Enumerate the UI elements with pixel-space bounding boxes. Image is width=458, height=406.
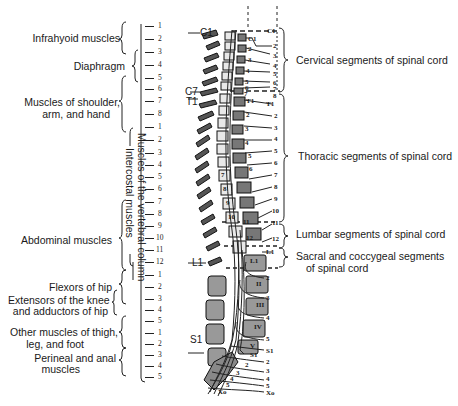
label-thoracic-segments: Thoracic segments of spinal cord: [298, 150, 452, 162]
body-t7: 7: [221, 171, 225, 179]
body-coccygeal: Xo: [218, 388, 227, 396]
label-sacral-segments-2: of spinal cord: [306, 262, 368, 274]
body-t4: 4: [245, 139, 249, 147]
thoracic-scale-12: 12: [156, 258, 164, 266]
root-t4: 4: [274, 135, 278, 143]
sacral-scale-1: 1: [158, 329, 162, 337]
root-l4: 4: [266, 314, 270, 322]
body-l3: III: [256, 301, 264, 309]
root-t2: 2: [274, 112, 278, 120]
root-l2: 2: [266, 274, 270, 282]
root-l1: L1: [266, 248, 274, 256]
thoracic-scale-11: 11: [156, 246, 163, 254]
cervical-scale-4: 4: [158, 61, 162, 69]
body-c1: C1: [248, 35, 257, 43]
lumbar-scale-5: 5: [158, 317, 162, 325]
thoracic-scale-10: 10: [156, 234, 164, 242]
root-c8: 8: [273, 92, 277, 100]
thoracic-scale-2: 2: [158, 136, 162, 144]
lumbar-scale-1: 1: [158, 271, 162, 279]
root-c5: 5: [273, 70, 277, 78]
body-s1: S1: [250, 351, 257, 359]
body-t9: 9: [226, 199, 230, 207]
root-t1: T1: [266, 100, 274, 108]
label-sacral-segments-1: Sacral and coccygeal segments: [296, 250, 444, 262]
thoracic-scale-8: 8: [158, 210, 162, 218]
body-t6: 6: [249, 165, 253, 173]
sacral-scale-4: 4: [158, 362, 162, 370]
root-t3: 3: [274, 124, 278, 132]
vertebra-label-t1: T1: [186, 96, 198, 107]
body-t2: 2: [246, 111, 250, 119]
body-t10: 10: [228, 213, 235, 221]
root-t12: 12: [272, 235, 279, 243]
sacral-scale-3: 3: [158, 351, 162, 359]
lumbar-scale-2: 2: [158, 283, 162, 291]
body-t8: 8: [223, 185, 227, 193]
thoracic-scale-7: 7: [158, 198, 162, 206]
label-lumbar-segments: Lumbar segments of spinal cord: [296, 228, 445, 240]
root-s1: S1: [266, 347, 273, 355]
root-c4: 4: [273, 62, 277, 70]
body-t1: T1: [246, 97, 254, 105]
cervical-scale-8: 8: [158, 110, 162, 118]
body-c4: 4: [246, 67, 250, 75]
sacral-scale-5: 5: [158, 373, 162, 381]
thoracic-scale-9: 9: [158, 222, 162, 230]
cervical-scale-6: 6: [158, 85, 162, 93]
body-c3: 3: [248, 56, 252, 64]
body-s2: 2: [245, 361, 249, 369]
lumbar-scale-3: 3: [158, 295, 162, 303]
thoracic-scale-4: 4: [158, 161, 162, 169]
sacral-scale-2: 2: [158, 340, 162, 348]
label-cervical-segments: Cervical segments of spinal cord: [296, 54, 448, 66]
lumbar-scale-4: 4: [158, 306, 162, 314]
root-l5: 5: [266, 335, 270, 343]
root-t11: 11: [272, 219, 279, 227]
body-t11: 11: [243, 218, 250, 226]
root-c3: 3: [273, 52, 277, 60]
root-t10: 10: [272, 207, 279, 215]
cervical-scale-1: 1: [158, 22, 162, 30]
body-c2: 2: [248, 45, 252, 53]
vertebra-label-s1: S1: [190, 334, 202, 345]
root-t7: 7: [274, 171, 278, 179]
root-s2: 2: [266, 358, 270, 366]
root-t9: 9: [274, 195, 278, 203]
vertebra-label-l1: L1: [192, 257, 203, 268]
body-l4: IV: [254, 323, 262, 331]
body-s4: 4: [230, 375, 234, 383]
body-t5: 5: [248, 152, 252, 160]
body-t3: 3: [245, 125, 249, 133]
thoracic-scale-5: 5: [158, 173, 162, 181]
root-coccygeal: Xo: [266, 389, 275, 397]
thoracic-scale-3: 3: [158, 149, 162, 157]
cervical-scale-5: 5: [158, 74, 162, 82]
root-t5: 5: [274, 147, 278, 155]
thoracic-scale-1: 1: [158, 123, 162, 131]
root-l3: 3: [266, 294, 270, 302]
root-c2: 2: [273, 42, 277, 50]
cervical-scale-3: 3: [158, 48, 162, 56]
body-l1: L1: [250, 257, 258, 265]
body-t12: 12: [246, 234, 253, 242]
body-l2: II: [256, 280, 261, 288]
root-t6: 6: [274, 159, 278, 167]
root-s3: 3: [266, 367, 270, 375]
vertebra-label-c1: C1: [200, 27, 213, 38]
thoracic-scale-6: 6: [158, 185, 162, 193]
root-c1: C1: [267, 27, 276, 35]
body-s3: 3: [236, 369, 240, 377]
root-t8: 8: [274, 183, 278, 191]
body-l5: V: [250, 342, 255, 350]
cervical-scale-7: 7: [158, 97, 162, 105]
cervical-scale-2: 2: [158, 35, 162, 43]
